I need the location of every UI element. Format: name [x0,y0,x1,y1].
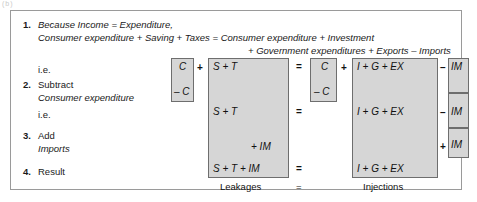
cell-injections-result: I + G + EX [357,163,404,174]
step-1-number: 1. [23,19,31,30]
figure-frame: 1. Because Income = Expenditure, Consume… [10,10,462,190]
cell-injections-row1: I + G + EX [357,61,404,72]
step-4-number: 4. [23,166,31,177]
caption-leakages: Leakages [220,181,261,192]
label-ie-2: i.e. [38,109,51,120]
cell-leakages-row1: S + T [213,61,237,72]
cell-im-row4: IM [451,139,462,150]
step-2-line-1: Subtract [38,79,73,90]
caption-injections: Injections [363,181,403,192]
step-2-line-2: Consumer expenditure [38,92,134,103]
step-2-number: 2. [23,79,31,90]
caption-equals: = [296,181,302,192]
cell-im-row3: IM [451,106,462,117]
cell-c-left: C [179,61,186,72]
cell-minus-c-left: – C [174,86,190,97]
step-4-line-1: Result [38,166,65,177]
box-leakages [208,58,289,178]
operator-plus-imports: + [440,141,446,152]
cell-minus-c-right: – C [314,86,330,97]
step-1-line-2: Consumer expenditure + Saving + Taxes = … [38,32,374,43]
step-3-line-1: Add [38,130,55,141]
equals-row3: = [296,106,302,117]
step-3-number: 3. [23,130,31,141]
cell-leakages-row3: S + T [213,106,237,117]
cell-leakages-result: S + T + IM [213,163,260,174]
cell-injections-row3: I + G + EX [357,106,404,117]
step-1-line-3: + Government expenditures + Exports – Im… [248,45,451,56]
label-ie-1: i.e. [38,64,51,75]
cell-im-row1: IM [451,61,462,72]
cell-c-right: C [321,61,328,72]
equals-row1: = [296,61,302,72]
operator-minus-row3: – [440,107,446,118]
operator-minus-row1: – [440,62,446,73]
equals-row5: = [296,163,302,174]
operator-plus-right: + [341,62,347,73]
step-1-line-1: Because Income = Expenditure, [38,19,173,30]
figure-artifact-label: (b) [2,0,14,7]
operator-plus-left: + [197,62,203,73]
step-3-line-2: Imports [38,143,70,154]
cell-leakages-add-imports: + IM [251,141,271,152]
box-injections [352,58,438,178]
